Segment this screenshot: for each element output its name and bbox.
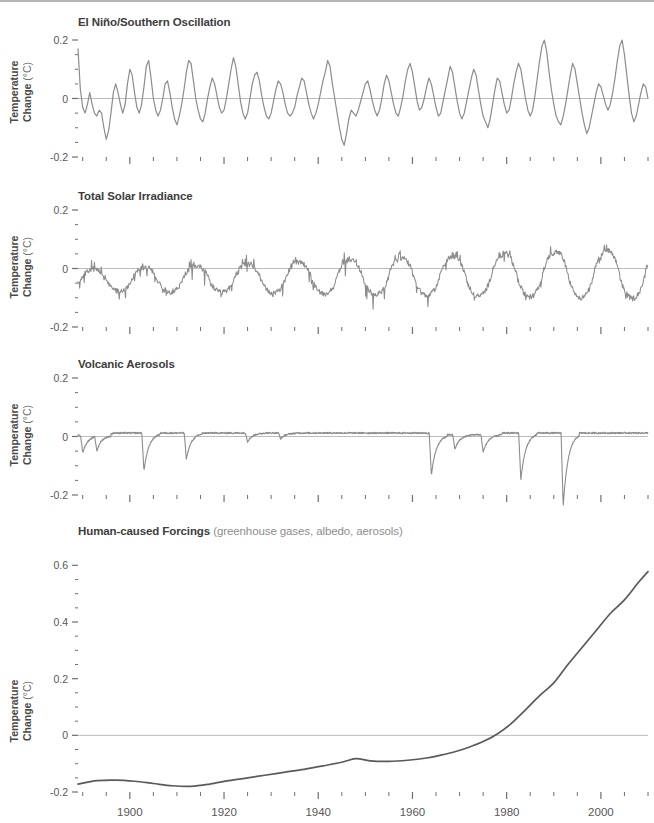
svg-text:1900: 1900 <box>117 806 143 818</box>
svg-text:1940: 1940 <box>305 806 331 818</box>
ylabel-line1: Temperature <box>8 236 20 299</box>
panel-human-title: Human-caused Forcings (greenhouse gases,… <box>78 525 403 537</box>
panel-human-title-main: Human-caused Forcings <box>78 525 210 537</box>
svg-text:0: 0 <box>62 431 68 443</box>
panel-enso-ylabel: Temperature Change (°C) <box>8 27 33 157</box>
svg-text:0.2: 0.2 <box>53 372 68 384</box>
panel-solar-title: Total Solar Irradiance <box>78 190 193 202</box>
ylabel-line1: Temperature <box>8 404 20 467</box>
svg-text:-0.2: -0.2 <box>50 489 68 501</box>
svg-text:-0.2: -0.2 <box>50 786 68 798</box>
svg-text:-0.2: -0.2 <box>50 321 68 333</box>
svg-text:0: 0 <box>62 93 68 105</box>
panel-volcanic: Volcanic Aerosols Temperature Change (°C… <box>0 350 654 518</box>
panel-solar-ylabel: Temperature Change (°C) <box>8 202 33 332</box>
svg-text:0.2: 0.2 <box>53 34 68 46</box>
panel-solar: Total Solar Irradiance Temperature Chang… <box>0 182 654 350</box>
panel-volcanic-ylabel: Temperature Change (°C) <box>8 370 33 500</box>
climate-forcings-figure: El Niño/Southern Oscillation Temperature… <box>0 0 654 823</box>
panel-enso-title: El Niño/Southern Oscillation <box>78 16 230 28</box>
svg-text:0.6: 0.6 <box>53 559 68 571</box>
svg-text:-0.2: -0.2 <box>50 151 68 163</box>
panel-enso: El Niño/Southern Oscillation Temperature… <box>0 2 654 182</box>
panel-human-ylabel: Temperature Change (°C) <box>8 646 33 776</box>
panel-volcanic-title: Volcanic Aerosols <box>78 358 175 370</box>
ylabel-unit: (°C) <box>21 237 33 256</box>
panel-human-plot: -0.200.20.40.6190019201940196019802000 <box>0 518 654 823</box>
panel-enso-plot: -0.200.2 <box>0 2 654 182</box>
svg-text:0: 0 <box>62 729 68 741</box>
svg-text:1960: 1960 <box>400 806 426 818</box>
panel-solar-plot: -0.200.2 <box>0 182 654 350</box>
ylabel-line2: Change <box>21 84 33 123</box>
ylabel-unit: (°C) <box>21 62 33 81</box>
svg-text:2000: 2000 <box>588 806 614 818</box>
ylabel-line2: Change <box>21 427 33 466</box>
ylabel-line1: Temperature <box>8 61 20 124</box>
svg-text:0.2: 0.2 <box>53 204 68 216</box>
ylabel-line1: Temperature <box>8 680 20 743</box>
panel-human: Human-caused Forcings (greenhouse gases,… <box>0 518 654 823</box>
svg-text:0.4: 0.4 <box>53 616 68 628</box>
svg-text:1980: 1980 <box>494 806 520 818</box>
ylabel-unit: (°C) <box>21 681 33 700</box>
svg-text:0: 0 <box>62 263 68 275</box>
ylabel-unit: (°C) <box>21 405 33 424</box>
svg-text:0.2: 0.2 <box>53 673 68 685</box>
svg-text:1920: 1920 <box>211 806 237 818</box>
ylabel-line2: Change <box>21 703 33 742</box>
ylabel-line2: Change <box>21 259 33 298</box>
panel-volcanic-plot: -0.200.2 <box>0 350 654 518</box>
panel-human-subtitle: (greenhouse gases, albedo, aerosols) <box>213 525 402 537</box>
